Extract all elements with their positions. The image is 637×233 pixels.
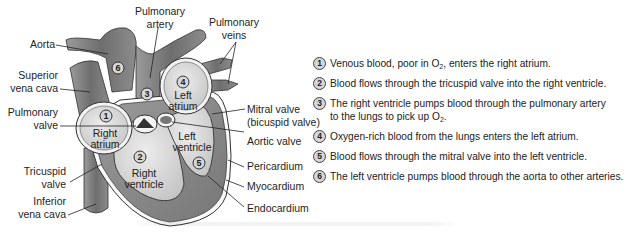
pulmonary-valve	[133, 115, 157, 133]
step-text: Oxygen-rich blood from the lungs enters …	[330, 130, 637, 143]
step-text: Blood flows through the mitral valve int…	[330, 150, 637, 163]
label-right-ventricle-2: ventricle	[124, 178, 163, 190]
label-pericardium: Pericardium	[247, 160, 303, 172]
marker-4: 4	[177, 76, 189, 88]
svg-text:5: 5	[196, 158, 201, 168]
label-superior-vena-cava-1: Superior	[18, 69, 58, 81]
label-right-atrium-2: atrium	[90, 138, 119, 150]
label-mitral-valve-1: Mitral valve	[247, 103, 300, 115]
label-pulmonary-artery-2: artery	[147, 18, 175, 30]
aortic-valve	[157, 113, 175, 127]
svg-text:2: 2	[137, 152, 142, 162]
step-item: 1 Venous blood, poor in O2, enters the r…	[313, 57, 637, 70]
marker-5: 5	[193, 157, 205, 169]
step-text: Blood flows through the tricuspid valve …	[330, 77, 637, 90]
label-inferior-vena-cava-2: vena cava	[18, 208, 66, 220]
marker-1: 1	[100, 110, 112, 122]
label-aorta: Aorta	[30, 38, 55, 50]
label-inferior-vena-cava-1: Inferior	[33, 195, 66, 207]
label-pulmonary-valve-2: valve	[33, 119, 58, 131]
label-left-atrium-2: atrium	[168, 100, 197, 112]
blood-flow-steps: 1 Venous blood, poor in O2, enters the r…	[313, 57, 637, 190]
step-item: 4 Oxygen-rich blood from the lungs enter…	[313, 130, 637, 143]
step-item: 6 The left ventricle pumps blood through…	[313, 170, 637, 183]
step-text: Venous blood, poor in O2, enters the rig…	[330, 57, 637, 70]
step-text: The left ventricle pumps blood through t…	[330, 170, 637, 183]
marker-2: 2	[134, 151, 146, 163]
step-text: The right ventricle pumps blood through …	[330, 97, 613, 123]
label-mitral-valve-2: (bicuspid valve)	[247, 116, 320, 128]
step-number-badge: 1	[313, 57, 326, 70]
label-tricuspid-valve-1: Tricuspid	[24, 165, 66, 177]
svg-text:4: 4	[180, 77, 185, 87]
svg-text:3: 3	[144, 89, 149, 99]
label-myocardium: Myocardium	[247, 180, 304, 192]
label-pulmonary-veins-1: Pulmonary	[209, 16, 260, 28]
faded-caption-line	[130, 222, 460, 226]
label-endocardium: Endocardium	[247, 202, 309, 214]
label-pulmonary-artery-1: Pulmonary	[135, 5, 186, 17]
step-item: 2 Blood flows through the tricuspid valv…	[313, 77, 637, 90]
step-number-badge: 5	[313, 150, 326, 163]
marker-3: 3	[141, 88, 153, 100]
step-item: 3 The right ventricle pumps blood throug…	[313, 97, 613, 123]
step-number-badge: 2	[313, 77, 326, 90]
label-left-ventricle-2: ventricle	[172, 141, 211, 153]
marker-6: 6	[112, 62, 124, 74]
step-item: 5 Blood flows through the mitral valve i…	[313, 150, 637, 163]
label-superior-vena-cava-2: vena cava	[10, 82, 58, 94]
svg-text:1: 1	[103, 111, 108, 121]
step-number-badge: 4	[313, 130, 326, 143]
label-pulmonary-veins-2: veins	[222, 29, 247, 41]
step-number-badge: 3	[313, 97, 326, 110]
svg-text:6: 6	[115, 63, 120, 73]
label-aortic-valve: Aortic valve	[247, 135, 301, 147]
label-pulmonary-valve-1: Pulmonary	[8, 106, 59, 118]
step-number-badge: 6	[313, 170, 326, 183]
label-tricuspid-valve-2: valve	[41, 178, 66, 190]
